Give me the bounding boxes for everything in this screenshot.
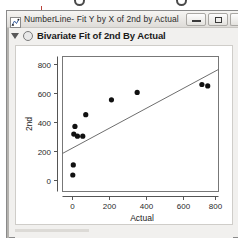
data-point[interactable] [80, 134, 85, 139]
x-tick-label: 400 [140, 202, 154, 211]
window-title: NumberLine- Fit Y by X of 2nd by Actual [24, 14, 186, 24]
data-point[interactable] [199, 82, 204, 87]
report-header: Bivariate Fit of 2nd By Actual [7, 28, 238, 43]
background-icon-left [74, 0, 85, 6]
y-tick-label: 0 [47, 177, 52, 186]
data-points [70, 82, 210, 178]
data-point[interactable] [70, 172, 75, 177]
fit-line-segment [63, 69, 219, 153]
maximize-icon [215, 17, 222, 23]
plot-frame [63, 57, 219, 192]
y-tick-label: 800 [38, 61, 52, 70]
close-button[interactable] [230, 13, 238, 26]
disclosure-triangle-icon[interactable] [11, 33, 19, 39]
y-tick-label: 600 [38, 90, 52, 99]
x-axis-ticks: 0 200 400 600 800 [70, 197, 222, 212]
bivariate-scatter-plot: 800 600 400 200 0 0 200 400 600 800 2nd [16, 46, 232, 224]
y-tick-label: 200 [38, 148, 52, 157]
linear-fit-line [63, 69, 219, 153]
data-point[interactable] [135, 90, 140, 95]
data-point[interactable] [83, 112, 88, 117]
minimize-icon [192, 20, 201, 22]
data-point[interactable] [205, 83, 210, 88]
panel-footer [15, 226, 233, 238]
window-titlebar[interactable]: NumberLine- Fit Y by X of 2nd by Actual [7, 11, 238, 28]
y-tick-label: 400 [38, 119, 52, 128]
report-node-icon[interactable] [23, 31, 33, 41]
plot-panel: 800 600 400 200 0 0 200 400 600 800 2nd [15, 45, 233, 225]
maximize-button[interactable] [208, 13, 228, 26]
data-point[interactable] [71, 162, 76, 167]
y-axis-title: 2nd [24, 117, 34, 131]
x-tick-label: 600 [177, 202, 191, 211]
background-icon-right [176, 0, 187, 6]
y-axis-ticks: 800 600 400 200 0 [38, 61, 58, 186]
window-controls [186, 13, 238, 26]
data-point[interactable] [109, 97, 114, 102]
x-axis-title: Actual [130, 213, 154, 223]
data-point[interactable] [72, 124, 77, 129]
footer-divider [15, 229, 89, 232]
background-window-fragment [0, 0, 238, 10]
data-point[interactable] [75, 134, 80, 139]
jmp-report-icon [10, 14, 21, 25]
report-window: NumberLine- Fit Y by X of 2nd by Actual … [6, 10, 238, 238]
x-tick-label: 200 [103, 202, 117, 211]
x-tick-label: 0 [70, 202, 75, 211]
window-left-edge [7, 28, 9, 238]
minimize-button[interactable] [186, 13, 206, 26]
x-tick-label: 800 [209, 202, 223, 211]
report-title: Bivariate Fit of 2nd By Actual [37, 30, 166, 41]
